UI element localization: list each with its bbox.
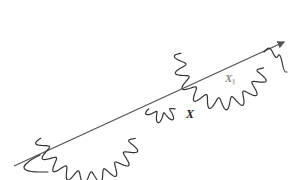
label-x-text: X [186,107,194,121]
helix-tail-right [264,48,287,72]
label-x-parallel-subscript: ∥ [232,79,235,85]
diagram-canvas: X X∥ [0,0,296,180]
helix-tail-left [24,155,48,172]
helix-wave-left [36,138,138,180]
helix-wave-right [174,53,266,110]
label-x-parallel: X∥ [225,73,235,85]
diagram-svg [0,0,296,180]
label-x-displacement: X [186,108,194,120]
helix-wave-lower-bump [146,109,176,123]
